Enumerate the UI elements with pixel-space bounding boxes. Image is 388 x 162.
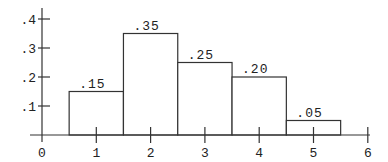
x-tick-label: 6: [364, 146, 372, 161]
histogram-bar: [232, 77, 286, 135]
bar-value-label: .20: [242, 62, 268, 77]
x-tick-label: 4: [255, 146, 263, 161]
bar-value-label: .35: [133, 19, 159, 34]
bars-group: .15.35.25.20.05: [69, 19, 341, 136]
x-tick-label: 5: [310, 146, 318, 161]
bar-value-label: .25: [188, 48, 214, 63]
histogram-chart: .15.35.25.20.05 0123456 .1.2.3.4: [0, 0, 388, 162]
bar-value-label: .05: [296, 106, 322, 121]
x-tick-label: 3: [201, 146, 209, 161]
y-tick-label: .3: [20, 42, 36, 57]
y-tick-label: .4: [20, 13, 36, 28]
x-tick-label: 1: [92, 146, 100, 161]
x-tick-label: 0: [38, 146, 46, 161]
y-tick-label: .2: [20, 71, 36, 86]
y-tick-label: .1: [20, 100, 36, 115]
y-ticks-group: .1.2.3.4: [20, 13, 50, 115]
x-tick-label: 2: [147, 146, 155, 161]
histogram-bar: [178, 63, 232, 136]
bar-value-label: .15: [79, 77, 105, 92]
histogram-bar: [123, 34, 177, 136]
